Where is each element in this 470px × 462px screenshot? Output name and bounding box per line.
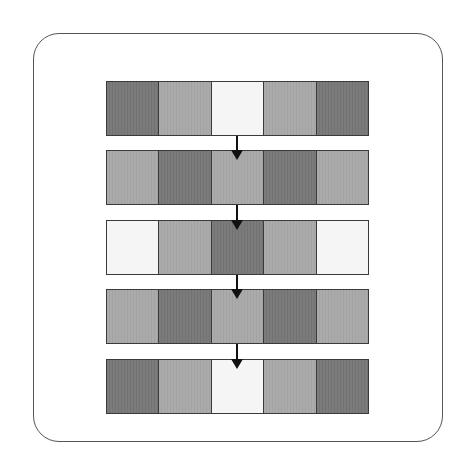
cell-dark xyxy=(264,151,316,204)
cell-dark xyxy=(317,360,368,413)
cell-dark xyxy=(107,82,159,135)
cell-dark xyxy=(317,82,368,135)
cell-mid xyxy=(264,360,316,413)
cell-light xyxy=(107,221,159,274)
pattern-row-1 xyxy=(106,81,369,136)
cell-mid xyxy=(159,360,211,413)
cell-dark xyxy=(264,290,316,343)
cell-mid xyxy=(264,82,316,135)
cell-mid xyxy=(107,290,159,343)
arrow-down-icon xyxy=(231,136,243,160)
cell-dark xyxy=(107,360,159,413)
cell-mid xyxy=(317,151,368,204)
cell-light xyxy=(212,82,264,135)
cell-mid xyxy=(317,290,368,343)
cell-mid xyxy=(159,221,211,274)
cell-mid xyxy=(107,151,159,204)
cell-light xyxy=(317,221,368,274)
arrow-down-icon xyxy=(231,275,243,299)
cell-dark xyxy=(159,151,211,204)
cell-mid xyxy=(264,221,316,274)
cell-dark xyxy=(159,290,211,343)
arrow-down-icon xyxy=(231,205,243,230)
arrow-down-icon xyxy=(231,344,243,369)
cell-mid xyxy=(159,82,211,135)
